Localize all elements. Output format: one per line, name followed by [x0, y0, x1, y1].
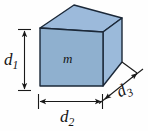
dimension-label-d2: d2 — [60, 108, 74, 128]
mass-label: m — [63, 52, 72, 65]
d1-base: d — [4, 50, 13, 69]
d1-subscript: 1 — [13, 59, 19, 72]
dimension-label-d1: d1 — [4, 51, 18, 71]
d2-subscript: 2 — [69, 116, 75, 129]
box-dimension-figure: d1 d2 d3 m — [0, 0, 148, 131]
d2-base: d — [60, 107, 69, 126]
box-solid — [40, 5, 122, 86]
d3-leader-line — [122, 62, 137, 73]
